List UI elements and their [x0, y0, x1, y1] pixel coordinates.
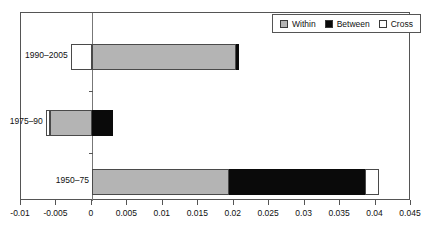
- x-tick-6: [233, 200, 234, 205]
- x-tick-label-5: 0.015: [187, 208, 208, 218]
- legend-label-cross: Cross: [391, 19, 413, 29]
- legend-label-within: Within: [292, 19, 316, 29]
- x-tick-label-9: 0.035: [328, 208, 349, 218]
- bar-segment-within: [50, 110, 92, 136]
- x-tick-3: [126, 200, 127, 205]
- bar-segment-between: [229, 169, 364, 195]
- x-tick-label-7: 0.025: [258, 208, 279, 218]
- x-tick-label-0: -0.01: [10, 208, 29, 218]
- category-separator-tick-2: [89, 153, 93, 154]
- category-separator-tick-1: [89, 91, 93, 92]
- plot-area: [20, 12, 410, 200]
- x-tick-10: [375, 200, 376, 205]
- x-tick-label-4: 0.01: [154, 208, 171, 218]
- x-tick-0: [20, 200, 21, 205]
- legend-item-cross: Cross: [379, 19, 413, 29]
- x-tick-2: [91, 200, 92, 205]
- bar-segment-within: [92, 169, 230, 195]
- x-tick-label-8: 0.03: [295, 208, 312, 218]
- x-tick-label-10: 0.04: [366, 208, 383, 218]
- x-tick-9: [339, 200, 340, 205]
- x-tick-label-3: 0.005: [116, 208, 137, 218]
- bar-segment-between: [236, 44, 240, 70]
- chart-container: 1990–20051975–901950–75 -0.01-0.00500.00…: [0, 0, 430, 230]
- legend-item-within: Within: [280, 19, 316, 29]
- category-label-2: 1975–90: [0, 116, 43, 126]
- legend-swatch-cross-icon: [379, 20, 387, 28]
- legend-item-between: Between: [325, 19, 370, 29]
- category-label-1: 1990–2005: [0, 50, 68, 60]
- bar-segment-cross: [365, 169, 379, 195]
- legend-swatch-within-icon: [280, 20, 288, 28]
- bar-group-1: [21, 44, 411, 70]
- x-tick-8: [304, 200, 305, 205]
- chart-legend: WithinBetweenCross: [272, 14, 421, 33]
- category-label-3: 1950–75: [0, 175, 89, 185]
- bar-segment-within: [92, 44, 236, 70]
- legend-label-between: Between: [337, 19, 370, 29]
- x-tick-label-11: 0.045: [399, 208, 420, 218]
- x-tick-label-1: -0.005: [43, 208, 67, 218]
- x-tick-7: [268, 200, 269, 205]
- x-tick-5: [197, 200, 198, 205]
- x-tick-label-6: 0.02: [224, 208, 241, 218]
- legend-swatch-between-icon: [325, 20, 333, 28]
- x-tick-4: [162, 200, 163, 205]
- bar-group-2: [21, 110, 411, 136]
- bar-segment-between: [92, 110, 113, 136]
- x-tick-11: [410, 200, 411, 205]
- x-tick-1: [55, 200, 56, 205]
- bar-segment-cross: [71, 44, 92, 70]
- x-tick-label-2: 0: [89, 208, 94, 218]
